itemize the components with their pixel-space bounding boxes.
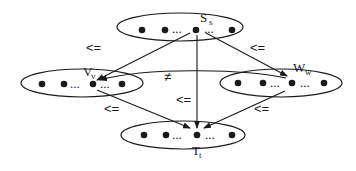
node-s: ... ... S s xyxy=(117,10,243,41)
node-t-dot xyxy=(194,132,201,139)
edge-s-w xyxy=(206,33,287,76)
svg-text:v: v xyxy=(91,71,96,81)
svg-text:...: ... xyxy=(300,75,310,90)
edge-w-t xyxy=(204,91,285,128)
svg-text:w: w xyxy=(305,67,312,77)
node-v: ... ... V v xyxy=(21,64,143,97)
node-w-dot xyxy=(289,80,296,87)
edge-label-v-t: <= xyxy=(104,101,119,116)
svg-text:...: ... xyxy=(70,76,80,91)
edge-label-s-w: <= xyxy=(250,40,265,55)
svg-text:...: ... xyxy=(205,127,215,142)
svg-text:...: ... xyxy=(172,21,182,36)
edge-label-s-v: <= xyxy=(86,40,101,55)
svg-text:s: s xyxy=(209,17,213,27)
node-s-dot xyxy=(193,27,200,34)
node-t: ... ... T t xyxy=(121,121,245,160)
svg-text:t: t xyxy=(199,150,202,160)
svg-text:...: ... xyxy=(270,75,280,90)
svg-text:...: ... xyxy=(172,127,182,142)
lattice-diagram: ... ... S s ... ... V v ... ... W w ... xyxy=(0,0,356,171)
edge-label-w-v: ≠ xyxy=(164,69,171,84)
edge-w-v xyxy=(100,71,286,80)
edge-label-s-t: <= xyxy=(176,92,191,107)
node-w: ... ... W w xyxy=(220,60,342,97)
edge-label-w-t: <= xyxy=(254,101,269,116)
node-v-dot xyxy=(90,81,97,88)
node-s-label: S xyxy=(200,10,207,25)
